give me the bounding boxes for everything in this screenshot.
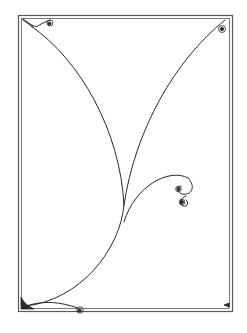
decorative-frame-illustration <box>0 0 247 333</box>
spiral-bottom <box>77 307 83 313</box>
vine-lines <box>23 19 225 308</box>
spiral-top-left <box>47 20 53 26</box>
corner-wedge-bottom-left <box>21 297 34 309</box>
frame-border <box>19 16 233 312</box>
spiral-tendril-lower <box>179 199 185 205</box>
corner-mark-bottom-right <box>224 303 229 307</box>
spiral-ornaments <box>21 20 229 313</box>
spiral-tendril-upper <box>176 186 182 192</box>
spiral-top-right <box>219 26 226 33</box>
